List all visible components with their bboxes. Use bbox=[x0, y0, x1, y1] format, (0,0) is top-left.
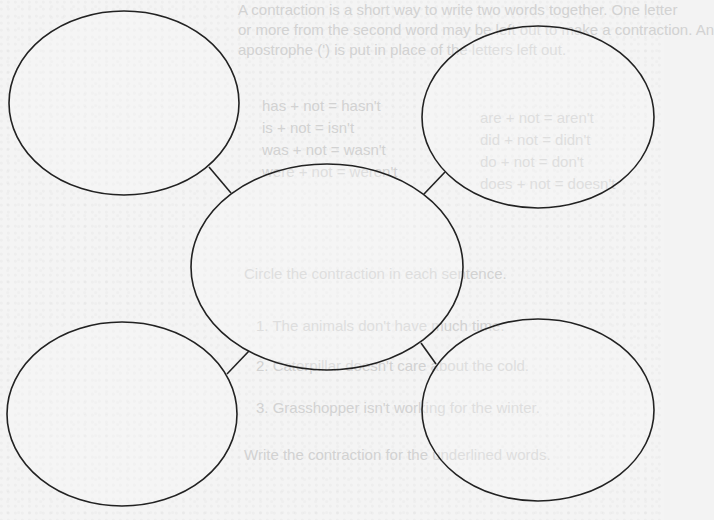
connector-bottom-right bbox=[421, 343, 436, 364]
oval-center bbox=[191, 164, 463, 370]
connector-top-right bbox=[424, 172, 445, 194]
oval-top-right bbox=[422, 26, 654, 208]
oval-bottom-left bbox=[7, 322, 237, 506]
connector-bottom-left bbox=[227, 351, 249, 374]
connector-top-left bbox=[209, 167, 231, 193]
oval-bottom-right bbox=[422, 319, 654, 501]
oval-top-left bbox=[9, 11, 239, 195]
